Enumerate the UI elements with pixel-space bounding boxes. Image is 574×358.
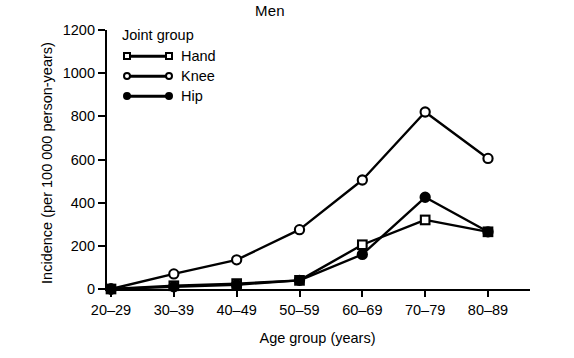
legend-marker-right-icon: [165, 52, 173, 60]
x-tick-label: 60–69: [342, 302, 382, 318]
data-point-marker: [421, 107, 430, 116]
legend-line: [127, 75, 169, 78]
y-tick-mark: [98, 115, 105, 117]
legend-marker-left-icon: [123, 92, 131, 100]
legend-item-hand: Hand: [122, 46, 216, 66]
legend-entries: HandKneeHip: [122, 46, 216, 106]
legend-marker-right-icon: [165, 72, 173, 80]
legend-marker-left-icon: [123, 72, 131, 80]
y-tick-mark: [98, 72, 105, 74]
y-tick-mark: [98, 159, 105, 161]
y-tick-mark: [98, 29, 105, 31]
x-tick-label: 70–79: [405, 302, 445, 318]
data-point-marker: [358, 175, 367, 184]
legend-item-hip: Hip: [122, 86, 216, 106]
data-point-marker: [483, 227, 492, 236]
legend-swatch-open-circle-icon: [122, 69, 174, 83]
x-tick-label: 30–39: [154, 302, 194, 318]
y-tick-mark: [98, 202, 105, 204]
data-point-marker: [295, 276, 304, 285]
x-tick-label: 80–89: [468, 302, 508, 318]
data-point-marker: [169, 269, 178, 278]
series-hip: [106, 193, 492, 294]
data-point-marker: [295, 225, 304, 234]
x-tick-label: 20–29: [91, 302, 131, 318]
series-knee: [106, 107, 492, 293]
x-tick-label: 50–59: [279, 302, 319, 318]
legend-title: Joint group: [122, 27, 216, 43]
data-point-marker: [232, 255, 241, 264]
y-tick-label: 400: [71, 195, 95, 211]
y-tick-label: 1000: [63, 65, 95, 81]
y-tick-label: 0: [87, 281, 95, 297]
data-point-marker: [358, 240, 367, 249]
legend-swatch-filled-circle-icon: [122, 89, 174, 103]
data-point-marker: [106, 284, 115, 293]
data-point-marker: [421, 193, 430, 202]
legend-marker-left-icon: [123, 52, 131, 60]
y-tick-mark: [98, 288, 105, 290]
y-tick-label: 200: [71, 238, 95, 254]
legend-label: Hand: [181, 48, 216, 64]
data-point-marker: [421, 216, 430, 225]
legend-line: [127, 55, 169, 58]
chart-figure: Men Incidence (per 100 000 person-years)…: [0, 0, 574, 358]
data-point-marker: [169, 282, 178, 291]
y-axis-title: Incidence (per 100 000 person-years): [39, 13, 55, 313]
data-point-marker: [232, 280, 241, 289]
y-tick-label: 800: [71, 108, 95, 124]
x-tick-label: 40–49: [216, 302, 256, 318]
legend-label: Hip: [181, 88, 203, 104]
legend-swatch-open-square-icon: [122, 49, 174, 63]
x-axis-title: Age group (years): [105, 330, 530, 346]
legend-marker-right-icon: [165, 92, 173, 100]
chart-title-text: Men: [255, 2, 285, 19]
legend-line: [127, 95, 169, 98]
legend-label: Knee: [181, 68, 215, 84]
y-tick-label: 1200: [63, 22, 95, 38]
legend-item-knee: Knee: [122, 66, 216, 86]
y-tick-mark: [98, 245, 105, 247]
chart-title: Men: [0, 2, 574, 19]
data-point-marker: [483, 154, 492, 163]
data-point-marker: [358, 250, 367, 259]
y-tick-label: 600: [71, 152, 95, 168]
legend: Joint group HandKneeHip: [122, 27, 216, 106]
